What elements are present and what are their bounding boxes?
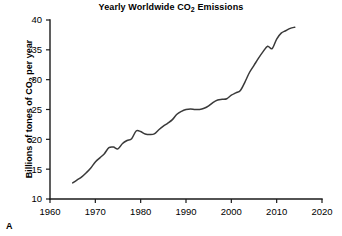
x-tick-label: 2020 <box>311 206 332 217</box>
x-tick-label-group: 1960197019801990200020102020 <box>39 206 332 217</box>
y-tick-label-group: 10152025303540 <box>31 14 42 204</box>
chart-plot-area: 10152025303540 1960197019801990200020102… <box>0 0 342 236</box>
x-tick-label: 1960 <box>39 206 60 217</box>
data-series-line <box>73 27 295 183</box>
x-tick-label: 1980 <box>130 206 151 217</box>
y-tick-label: 30 <box>31 74 42 85</box>
y-tick-label: 40 <box>31 14 42 25</box>
figure-panel: Yearly Worldwide CO2 Emissions Billions … <box>0 0 342 236</box>
x-tick-label: 2000 <box>221 206 242 217</box>
panel-label: A <box>6 221 13 231</box>
y-tick-label: 20 <box>31 134 42 145</box>
y-tick-label: 10 <box>31 193 42 204</box>
y-tick-label: 35 <box>31 44 42 55</box>
x-tick-label: 1990 <box>175 206 196 217</box>
x-tick-label: 2010 <box>266 206 287 217</box>
y-tick-label: 15 <box>31 164 42 175</box>
y-tick-label: 25 <box>31 104 42 115</box>
x-tick-label: 1970 <box>85 206 106 217</box>
